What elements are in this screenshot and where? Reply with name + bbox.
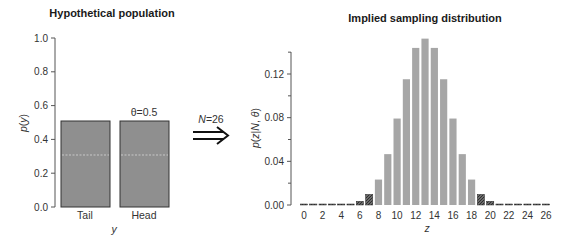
bar — [459, 154, 466, 205]
y-tick-label: 0.6 — [34, 100, 48, 111]
population-x-label: y — [110, 223, 117, 235]
bar-tail-region — [487, 201, 494, 205]
population-y-ticks: 0.00.20.40.60.81.0 — [34, 33, 55, 213]
x-tick-label: 14 — [429, 210, 441, 221]
x-tick-label: 10 — [392, 210, 404, 221]
bar-tail-region — [477, 194, 484, 205]
bar-tail-region — [496, 204, 503, 205]
y-tick-label: 0.04 — [265, 156, 285, 167]
sampling-panel: Implied sampling distribution 0.000.040.… — [249, 12, 552, 234]
bar-tail-region — [319, 204, 326, 205]
bar-tail-region — [310, 204, 317, 205]
bar-tail-region — [300, 204, 307, 205]
sampling-y-label: p(z|N, θ) — [249, 108, 261, 149]
bar — [468, 180, 475, 205]
category-head: Head — [131, 209, 156, 221]
x-tick-label: 24 — [522, 210, 534, 221]
x-tick-label: 12 — [410, 210, 422, 221]
category-tail: Tail — [77, 209, 93, 221]
bar — [384, 154, 391, 205]
bar-tail-region — [533, 204, 540, 205]
bar — [412, 48, 419, 205]
x-tick-label: 16 — [447, 210, 459, 221]
bar-tail-region — [366, 194, 373, 205]
bar-tail-region — [505, 204, 512, 205]
sampling-x-ticks: 02468101214161820222426 — [301, 210, 552, 221]
sampling-x-label: z — [423, 222, 430, 234]
bar-head — [120, 121, 169, 207]
x-tick-label: 8 — [376, 210, 382, 221]
bar — [449, 119, 456, 205]
population-y-label: p(y) — [17, 114, 29, 133]
x-tick-label: 4 — [338, 210, 344, 221]
y-tick-label: 0.2 — [34, 168, 48, 179]
sampling-bars — [300, 39, 549, 205]
y-tick-label: 0.0 — [34, 202, 48, 213]
x-tick-label: 18 — [466, 210, 478, 221]
y-tick-label: 0.4 — [34, 134, 48, 145]
bar — [421, 39, 428, 205]
bar-tail-region — [347, 204, 354, 205]
x-tick-label: 0 — [301, 210, 307, 221]
bar-tail-region — [542, 204, 549, 205]
sampling-title: Implied sampling distribution — [348, 12, 502, 24]
x-tick-label: 22 — [503, 210, 515, 221]
bar-tail-region — [524, 204, 531, 205]
x-tick-label: 2 — [320, 210, 326, 221]
y-tick-label: 1.0 — [34, 33, 48, 44]
population-title: Hypothetical population — [49, 7, 175, 19]
population-panel: Hypothetical population 0.00.20.40.60.81… — [17, 7, 175, 235]
sampling-arrow: N=26 — [193, 113, 228, 144]
bar — [403, 79, 410, 205]
y-tick-label: 0.8 — [34, 66, 48, 77]
y-tick-label: 0.08 — [265, 112, 285, 123]
sampling-y-ticks: 0.000.040.080.12 — [265, 52, 291, 210]
bar — [375, 180, 382, 205]
bar-tail-region — [338, 204, 345, 205]
x-tick-label: 26 — [540, 210, 552, 221]
bar-tail-region — [328, 204, 335, 205]
y-tick-label: 0.12 — [265, 69, 285, 80]
figure: Hypothetical population 0.00.20.40.60.81… — [0, 0, 570, 245]
bar-tail-region — [515, 204, 522, 205]
bar — [394, 119, 401, 205]
theta-annotation: θ=0.5 — [131, 106, 158, 118]
arrow-label: N=26 — [198, 113, 224, 125]
bar-tail — [61, 121, 110, 207]
double-arrow-icon — [217, 127, 228, 144]
y-tick-label: 0.00 — [265, 200, 285, 211]
bar — [431, 48, 438, 205]
bar — [440, 79, 447, 205]
x-tick-label: 6 — [357, 210, 363, 221]
x-tick-label: 20 — [485, 210, 497, 221]
bar-tail-region — [356, 201, 363, 205]
